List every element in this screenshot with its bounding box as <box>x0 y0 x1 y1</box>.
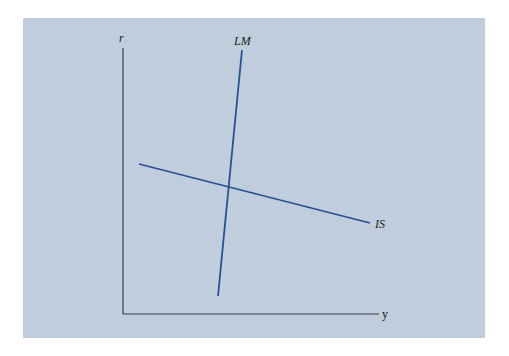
is-curve-label: IS <box>374 217 385 231</box>
x-axis-label: y <box>382 307 388 321</box>
lm-curve <box>218 50 242 296</box>
is-curve <box>139 164 370 223</box>
lm-curve-label: LM <box>233 34 252 48</box>
y-axis-label: r <box>119 31 124 45</box>
is-lm-diagram: r y LM IS <box>0 0 509 356</box>
